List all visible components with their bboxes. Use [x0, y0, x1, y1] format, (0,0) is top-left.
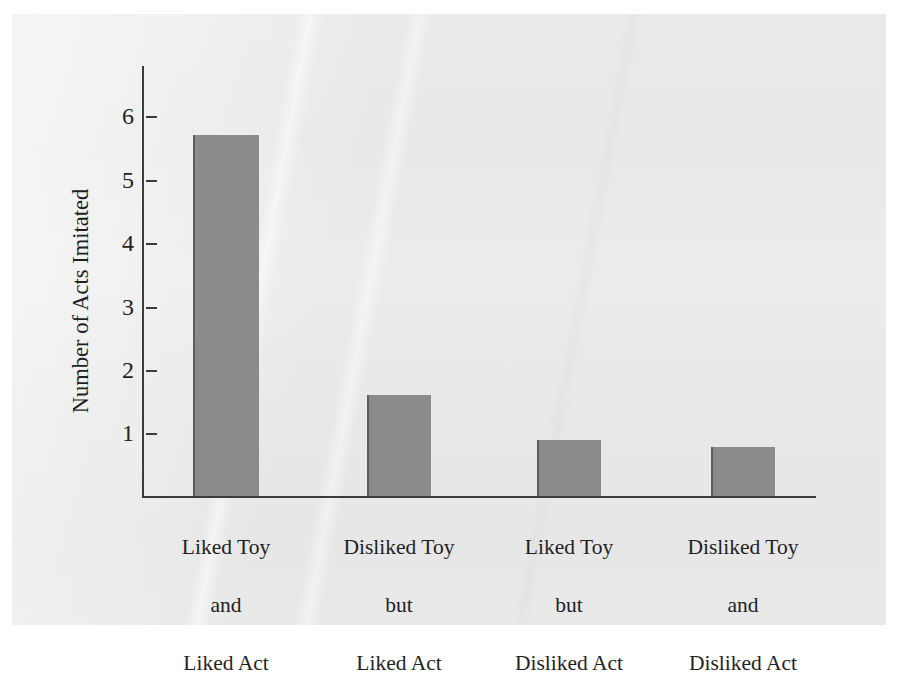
x-axis-label-2: Liked Toy but Disliked Act	[489, 504, 649, 674]
y-tick-label-6: 6	[100, 104, 134, 128]
y-axis-title: Number of Acts Imitated	[68, 156, 94, 446]
x-axis-label-3-line3: Disliked Act	[689, 651, 797, 674]
x-axis-label-0: Liked Toy and Liked Act	[146, 504, 306, 674]
y-tick-mark-6	[146, 116, 157, 118]
x-axis-label-1-line2: but	[385, 593, 412, 617]
x-axis-line	[142, 496, 816, 498]
x-axis-label-1-line1: Disliked Toy	[344, 535, 455, 559]
x-axis-label-0-line3: Liked Act	[183, 651, 268, 674]
bar-disliked-toy-but-liked-act	[367, 395, 431, 496]
x-axis-label-3-line1: Disliked Toy	[688, 535, 799, 559]
x-axis-label-1-line3: Liked Act	[356, 651, 441, 674]
bar-disliked-toy-and-disliked-act	[711, 447, 775, 496]
bar-liked-toy-and-liked-act	[193, 135, 259, 496]
x-axis-label-0-line1: Liked Toy	[182, 535, 270, 559]
y-tick-label-5: 5	[100, 168, 134, 192]
y-axis-line	[142, 66, 144, 498]
y-tick-label-2: 2	[100, 358, 134, 382]
x-axis-label-0-line2: and	[210, 593, 241, 617]
x-axis-label-2-line1: Liked Toy	[525, 535, 613, 559]
x-axis-label-2-line2: but	[555, 593, 582, 617]
y-tick-mark-5	[146, 180, 157, 182]
y-tick-mark-1	[146, 433, 157, 435]
y-tick-label-1: 1	[100, 421, 134, 445]
y-tick-mark-4	[146, 243, 157, 245]
y-tick-label-3: 3	[100, 295, 134, 319]
y-tick-label-4: 4	[100, 231, 134, 255]
bar-liked-toy-but-disliked-act	[537, 440, 601, 496]
x-axis-label-3: Disliked Toy and Disliked Act	[663, 504, 823, 674]
x-axis-label-2-line3: Disliked Act	[515, 651, 623, 674]
x-axis-label-1: Disliked Toy but Liked Act	[319, 504, 479, 674]
y-tick-mark-3	[146, 307, 157, 309]
x-axis-label-3-line2: and	[727, 593, 758, 617]
y-tick-mark-2	[146, 370, 157, 372]
